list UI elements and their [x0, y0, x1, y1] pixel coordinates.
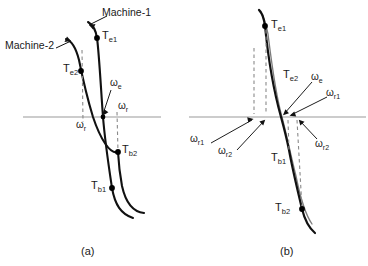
panel-a-te1-label: Te1 [102, 30, 117, 44]
panel-b-tb2-text: T [275, 201, 282, 213]
panel-a-te2-text: T [63, 62, 70, 74]
panel-b-point-te1 [262, 23, 268, 29]
panel-a-tb2-text: T [122, 143, 129, 155]
diagram-svg [0, 0, 368, 266]
panel-a-tb2-sub: b2 [129, 149, 137, 158]
panel-b-tb1-label: Tb1 [271, 152, 286, 166]
panel-b-arrowhead-omega-r1-right [290, 111, 297, 116]
panel-b-tb2-label: Tb2 [275, 202, 290, 216]
panel-b-omega-r1-left-label: ωr1 [190, 134, 204, 146]
panel-a-point-te1 [94, 35, 100, 41]
panel-b-leader-omega-r2-right [300, 121, 317, 139]
panel-b-arrowhead-omega-r1-left [247, 117, 253, 122]
panel-a-omega-e-text: ω [110, 77, 118, 88]
panel-b-omega-r1-right-text: ω [326, 87, 334, 98]
panel-b-omega-e-text: ω [311, 71, 319, 82]
panel-b-te2-text: T [283, 68, 290, 80]
figure-canvas: Machine-1 Machine-2 Te1 Te2 Tb2 Tb1 ωe ω… [0, 0, 368, 266]
panel-a-point-te2 [78, 68, 84, 74]
panel-b-omega-r2-left-label: ωr2 [218, 146, 232, 158]
panel-b-tb2-sub: b2 [282, 207, 290, 216]
panel-b-omega-r2-right-text: ω [315, 138, 323, 149]
panel-a-te2-label: Te2 [63, 63, 78, 77]
panel-b-omega-r2-left-text: ω [218, 145, 226, 156]
panel-a-tb2-label: Tb2 [122, 144, 137, 158]
panel-b-omega-r1-left-sub: r1 [198, 139, 204, 146]
panel-b-te1-sub: e1 [278, 24, 286, 33]
panel-a-tb1-sub: b1 [98, 185, 106, 194]
panel-a-omega-r-lower-label: ωr [76, 120, 86, 132]
panel-a-leader-machine2 [56, 41, 71, 48]
panel-a-machine1-label: Machine-1 [102, 7, 151, 18]
panel-a-point-tb2 [115, 149, 121, 155]
panel-a-te1-sub: e1 [109, 35, 117, 44]
panel-b-leader-omega-r2-left [237, 121, 264, 150]
panel-a-omega-r-upper-sub: r [126, 106, 128, 113]
panel-b-machine1-curve [259, 10, 315, 233]
panel-a-omega-e-sub: e [118, 83, 122, 90]
panel-a-machine2-label: Machine-2 [5, 40, 54, 51]
panel-a-caption: (a) [81, 246, 94, 257]
panel-a-omega-r-lower-sub: r [84, 125, 86, 132]
panel-b-omega-r2-right-sub: r2 [323, 144, 329, 151]
panel-b-tb1-sub: b1 [278, 157, 286, 166]
panel-b-omega-r1-left-text: ω [190, 133, 198, 144]
panel-b-caption: (b) [280, 246, 293, 257]
panel-b-omega-r1-right-sub: r1 [334, 93, 340, 100]
panel-b-leader-omega-e [284, 82, 312, 114]
panel-b-omega-e-sub: e [319, 77, 323, 84]
panel-a-tb1-text: T [91, 179, 98, 191]
panel-a-dash-tb2 [117, 112, 118, 152]
panel-b-te2-sub: e2 [290, 74, 298, 83]
panel-a-omega-r-upper-text: ω [118, 100, 126, 111]
panel-a-omega-r-upper-label: ωr [118, 101, 128, 113]
panel-b-tb1-text: T [271, 151, 278, 163]
panel-a-omega-r-lower-text: ω [76, 119, 84, 130]
panel-a-tb1-label: Tb1 [91, 180, 106, 194]
panel-b-point-tb2 [299, 206, 305, 212]
panel-b-group [189, 10, 366, 233]
panel-a-te2-sub: e2 [70, 68, 78, 77]
panel-a-point-tb1 [109, 185, 115, 191]
panel-b-omega-r1-right-label: ωr1 [326, 88, 340, 100]
panel-b-te1-label: Te1 [271, 19, 286, 33]
panel-b-te2-label: Te2 [283, 69, 298, 83]
panel-b-omega-r2-right-label: ωr2 [315, 139, 329, 151]
panel-b-leader-omega-r1-left [211, 120, 252, 143]
panel-b-omega-r2-left-sub: r2 [226, 151, 232, 158]
panel-b-arrowhead-omega-e [283, 109, 289, 115]
panel-a-point-crossing [101, 115, 106, 120]
panel-a-dash-te2 [82, 50, 83, 122]
panel-a-te1-text: T [102, 29, 109, 41]
panel-b-te1-text: T [271, 18, 278, 30]
panel-a-omega-e-label: ωe [110, 78, 122, 90]
panel-b-omega-e-label: ωe [311, 72, 323, 84]
